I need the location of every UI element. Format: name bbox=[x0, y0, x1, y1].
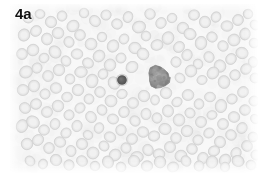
blood-smear-canvas bbox=[10, 4, 258, 173]
figure-panel: 4a bbox=[0, 0, 275, 187]
micrograph-image bbox=[10, 4, 258, 173]
panel-label: 4a bbox=[15, 6, 31, 22]
